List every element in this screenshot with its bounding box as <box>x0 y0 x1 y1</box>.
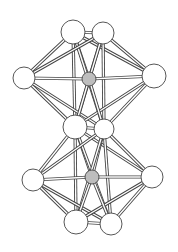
center-atom <box>85 170 99 184</box>
outer-atom <box>63 115 87 139</box>
outer-atom <box>13 67 35 89</box>
center-atom <box>82 72 96 86</box>
bond-fill <box>75 127 76 222</box>
outer-atom <box>22 169 44 191</box>
bond-fill <box>103 33 104 129</box>
outer-atom <box>142 64 166 88</box>
outer-atom <box>64 210 88 234</box>
bond-fill <box>75 127 152 177</box>
outer-atom <box>100 213 122 235</box>
outer-atom <box>92 22 114 44</box>
bonds-layer <box>24 32 154 224</box>
outer-atom <box>61 20 85 44</box>
cluster-structure-diagram <box>0 0 178 252</box>
outer-atom <box>141 166 163 188</box>
outer-atom <box>94 119 114 139</box>
